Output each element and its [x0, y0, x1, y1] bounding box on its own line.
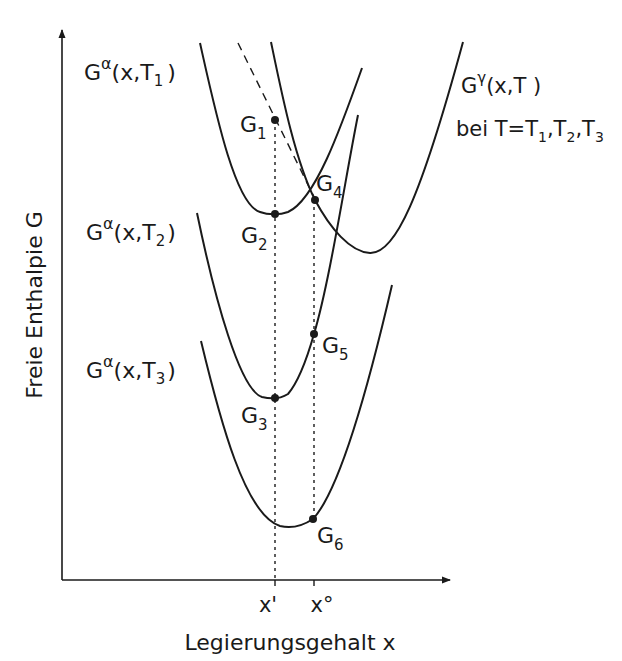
free-enthalpy-diagram: G1 G2 G3 G4 G5 G6 Gα(x,T1) Gα(x,T2) Gα(x…: [0, 0, 622, 661]
x-tick-label-x-prime: x': [259, 593, 277, 617]
y-axis-label: Freie Enthalpie G: [22, 211, 47, 398]
label-alpha-T1: Gα(x,T1): [84, 54, 176, 90]
point-G1: [271, 116, 279, 124]
point-G5: [310, 330, 318, 338]
label-G6: G6: [317, 523, 344, 554]
label-G3: G3: [241, 403, 268, 434]
label-G1: G1: [240, 112, 267, 143]
label-gamma: Gγ(x,T ): [461, 69, 541, 98]
label-G4: G4: [316, 171, 343, 202]
x-axis-label: Legierungsgehalt x: [184, 630, 395, 655]
point-G3: [271, 394, 279, 402]
point-G6: [309, 515, 317, 523]
x-tick-label-x-zero: x°: [311, 593, 334, 617]
label-gamma-temperatures: bei T=T1,T2,T3: [456, 117, 604, 145]
label-alpha-T2: Gα(x,T2): [86, 214, 176, 250]
point-G2: [271, 210, 279, 218]
curve-alpha-T3: [201, 285, 392, 527]
curve-gamma: [271, 42, 463, 253]
label-alpha-T3: Gα(x,T3): [86, 352, 176, 388]
label-G5: G5: [322, 333, 349, 364]
label-G2: G2: [241, 223, 268, 254]
point-G4: [311, 196, 319, 204]
